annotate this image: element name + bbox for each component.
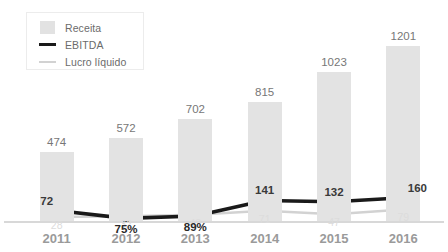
bar-2015 bbox=[317, 72, 351, 221]
bar-2016 bbox=[386, 46, 420, 221]
ebitda-value-label-2014: 141 bbox=[235, 184, 295, 196]
bar-value-label-2011: 474 bbox=[27, 136, 87, 148]
bar-value-label-2013: 702 bbox=[165, 103, 225, 115]
ebitda-value-label-2011: 72 bbox=[17, 195, 77, 207]
revenue-ebitda-chart: Receita EBITDA Lucro líquido 47420115722… bbox=[0, 0, 448, 252]
lucro-liquido-value-label-2016: 79 bbox=[373, 211, 433, 223]
lucro-liquido-value-label-2014: 71 bbox=[235, 213, 295, 225]
plot-area: 4742011572201270220138152014102320151201… bbox=[0, 0, 448, 252]
x-axis-label-2016: 2016 bbox=[373, 231, 433, 246]
bar-value-label-2014: 815 bbox=[235, 86, 295, 98]
x-axis-label-2014: 2014 bbox=[235, 231, 295, 246]
bar-value-label-2015: 1023 bbox=[304, 56, 364, 68]
lucro-liquido-value-label-2015: 47 bbox=[304, 216, 364, 228]
x-axis-label-2015: 2015 bbox=[304, 231, 364, 246]
bar-value-label-2012: 572 bbox=[96, 122, 156, 134]
bar-2014 bbox=[248, 102, 282, 221]
bar-2012 bbox=[109, 138, 143, 221]
ebitda-value-label-2016: 160 bbox=[387, 182, 447, 194]
lucro-liquido-value-label-2011: 28 bbox=[27, 219, 87, 231]
ebitda-value-label-2015: 132 bbox=[304, 186, 364, 198]
bar-2013 bbox=[178, 119, 212, 221]
x-axis-label-2013: 2013 bbox=[165, 231, 225, 246]
x-axis-label-2011: 2011 bbox=[27, 231, 87, 246]
bar-2011 bbox=[40, 152, 74, 221]
bar-value-label-2016: 1201 bbox=[373, 30, 433, 42]
ebitda-value-label-2012: 75% bbox=[96, 223, 156, 235]
ebitda-value-label-2013: 89% bbox=[165, 221, 225, 233]
